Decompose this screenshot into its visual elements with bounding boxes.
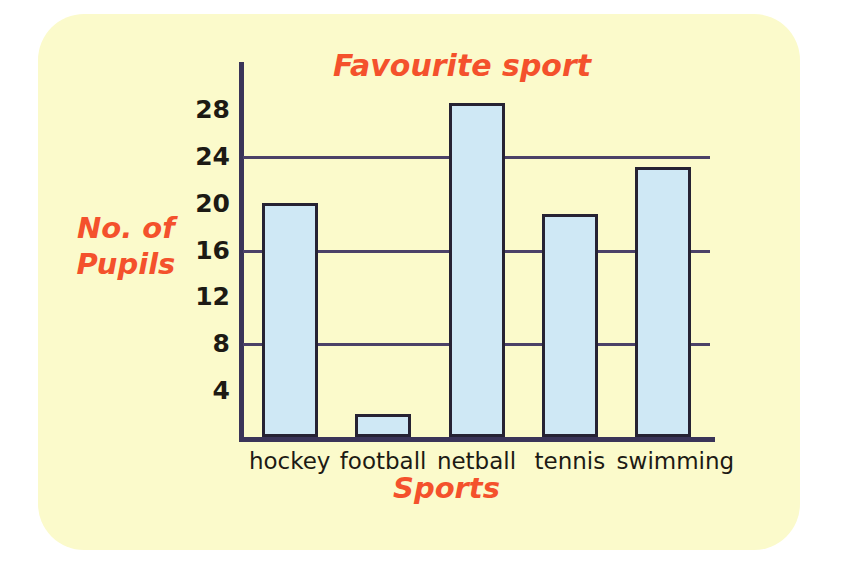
y-axis-tick-labels: 481216202428: [168, 62, 230, 442]
bar-chart: Favourite sport No. of Pupils Sports 481…: [38, 14, 800, 550]
x-axis-line: [239, 437, 715, 442]
y-tick-label: 12: [178, 284, 230, 309]
y-tick-label: 4: [178, 378, 230, 403]
y-tick-label: 8: [178, 331, 230, 356]
y-tick-label: 20: [178, 191, 230, 216]
x-axis-title: Sports: [393, 471, 500, 505]
x-tick-label: hockey: [243, 448, 336, 474]
y-tick-label: 24: [178, 144, 230, 169]
x-tick-label: swimming: [617, 448, 710, 474]
y-tick-label: 16: [178, 238, 230, 263]
bar: [355, 414, 411, 437]
x-tick-label: netball: [430, 448, 523, 474]
plot-area: hockeyfootballnetballtennisswimming: [243, 62, 710, 437]
bar: [542, 214, 598, 437]
x-tick-label: football: [336, 448, 429, 474]
bar: [262, 203, 318, 437]
chart-card: Favourite sport No. of Pupils Sports 481…: [38, 14, 800, 550]
bar: [635, 167, 691, 437]
bar: [449, 103, 505, 437]
x-tick-label: tennis: [523, 448, 616, 474]
y-tick-label: 28: [178, 97, 230, 122]
